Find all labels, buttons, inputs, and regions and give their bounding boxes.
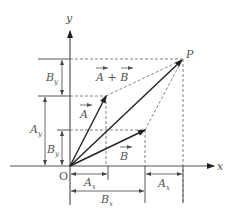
bx-bottom-label: Bx: [100, 193, 113, 208]
ay-label: Ay: [29, 123, 43, 138]
by-upper-label: By: [45, 71, 59, 86]
vector-b-label: B: [119, 150, 128, 163]
vector-b-arrow: [70, 130, 145, 166]
vector-a-label: A: [79, 108, 88, 121]
by-lower-label: By: [46, 143, 60, 158]
vector-a-arrow: [70, 96, 106, 166]
point-p-label: P: [185, 48, 194, 61]
origin-label: O: [59, 170, 68, 183]
ax-right-label: Ax: [157, 177, 170, 192]
y-axis-label: y: [65, 12, 73, 25]
vector-addition-diagram: y x O P A B A + B By Ay By Ax Bx Ax: [0, 0, 233, 223]
vector-sum-label: A + B: [95, 71, 128, 84]
ax-bottom-label: Ax: [83, 176, 96, 191]
x-axis-label: x: [217, 160, 224, 173]
